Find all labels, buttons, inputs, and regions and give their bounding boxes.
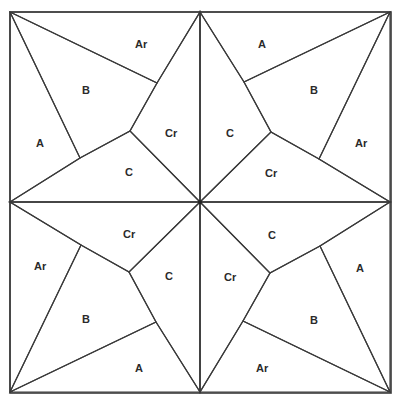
label-ar: Ar xyxy=(34,260,47,272)
label-b: B xyxy=(310,84,318,96)
label-cr: Cr xyxy=(165,127,178,139)
quadrant-bottom-left xyxy=(10,202,200,392)
label-c: C xyxy=(125,166,133,178)
label-b: B xyxy=(310,314,318,326)
quadrant-top-left xyxy=(10,12,200,202)
label-ar: Ar xyxy=(256,362,269,374)
quadrant-bottom-right xyxy=(200,202,390,392)
label-cr: Cr xyxy=(265,167,278,179)
label-b: B xyxy=(82,84,90,96)
label-a: A xyxy=(356,262,364,274)
label-a: A xyxy=(135,362,143,374)
label-cr: Cr xyxy=(224,271,237,283)
labels-bottom-right: C A Cr B Ar xyxy=(224,229,364,374)
label-ar: Ar xyxy=(135,38,148,50)
labels-top-right: A B C Ar Cr xyxy=(226,38,368,179)
label-b: B xyxy=(82,313,90,325)
label-c: C xyxy=(226,127,234,139)
label-a: A xyxy=(36,137,44,149)
quilt-block-diagram: Ar B A Cr C A B C Ar Cr Cr Ar C B A C A … xyxy=(0,0,401,400)
label-cr: Cr xyxy=(123,228,136,240)
label-c: C xyxy=(165,270,173,282)
label-ar: Ar xyxy=(355,137,368,149)
label-c: C xyxy=(268,229,276,241)
center-point xyxy=(198,200,202,204)
quadrant-top-right xyxy=(200,12,390,202)
label-a: A xyxy=(258,38,266,50)
